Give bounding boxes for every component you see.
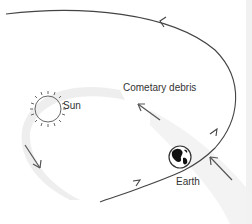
- diagram-canvas: [0, 0, 252, 224]
- debris-arrow-upper: [138, 104, 160, 120]
- sun-icon: [30, 91, 66, 127]
- earth-label: Earth: [176, 176, 200, 187]
- orbit-arrow-top: [160, 17, 166, 27]
- orbit-arrow-bottom: [133, 180, 140, 186]
- comet-debris-diagram: Cometary debris Sun Earth: [0, 0, 252, 224]
- orbit-arrow-right: [210, 129, 217, 136]
- cometary-debris-label: Cometary debris: [123, 82, 196, 93]
- earth-globe-icon: [169, 146, 191, 168]
- sun-label: Sun: [63, 100, 81, 111]
- debris-stream-2: [150, 110, 252, 224]
